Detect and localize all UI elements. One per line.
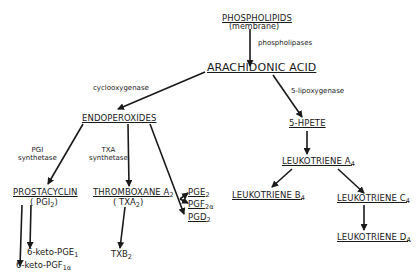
thromboxane-abbr: ( TXA2) xyxy=(113,198,143,209)
node-arachidonic-acid: ARACHIDONIC ACID xyxy=(207,62,316,73)
arachidonic-acid-label: ARACHIDONIC ACID xyxy=(207,61,316,74)
node-prostacyclin: PROSTACYCLIN xyxy=(13,188,78,197)
arrow-endoperoxides-pgd2 xyxy=(150,124,184,214)
node-pge2: PGE2 xyxy=(188,188,210,199)
node-leukotriene-a4: LEUKOTRIENE A4 xyxy=(282,157,355,168)
arrow-thromboxane-txb2 xyxy=(120,207,125,248)
node-leukotriene-c4: LEUKOTRIENE C4 xyxy=(337,194,410,205)
node-pgd2: PGD2 xyxy=(188,213,211,224)
enzyme-pgi-synthetase: PGI synthetase xyxy=(18,147,57,162)
arrow-arachidonic-hpete xyxy=(273,75,302,117)
endoperoxides-label: ENDOPEROXIDES xyxy=(82,113,156,123)
phospholipids-membrane-label: (membrane) xyxy=(229,23,279,31)
pgi-synthetase-line2: synthetase xyxy=(18,155,57,163)
node-5-hpete: 5-HPETE xyxy=(289,119,326,128)
node-6-keto-pgf1a: 6-keto-PGF1α xyxy=(16,261,71,272)
enzyme-txa-synthetase: TXA synthetase xyxy=(89,147,128,162)
enzyme-5-lipoxygenase: 5-lipoxygenase xyxy=(291,88,344,96)
node-leukotriene-b4: LEUKOTRIENE B4 xyxy=(232,191,305,202)
thromboxane-label: THROMBOXANE A2 xyxy=(93,187,174,197)
node-txb2: TXB2 xyxy=(111,250,132,261)
enzyme-cyclooxygenase: cyclooxygenase xyxy=(93,85,149,93)
arrow-prostacyclin-keto-pge1 xyxy=(30,205,31,248)
arachidonic-acid-pathway-diagram: PHOSPHOLIPIDS (membrane) phospholipases … xyxy=(0,0,419,279)
txa-synthetase-line2: synthetase xyxy=(89,155,128,163)
node-endoperoxides: ENDOPEROXIDES xyxy=(82,114,156,123)
prostacyclin-label: PROSTACYCLIN xyxy=(13,187,78,197)
arrow-endoperoxides-thromboxane xyxy=(128,124,129,186)
node-leukotriene-d4: LEUKOTRIENE D4 xyxy=(337,233,411,244)
arrow-prostacyclin-keto-pgf1a xyxy=(20,205,22,266)
node-pgf2a: PGF2α xyxy=(188,200,214,211)
prostacyclin-abbr: ( PGI2) xyxy=(30,198,58,209)
node-6-keto-pge1: 6-keto-PGE1 xyxy=(27,248,78,259)
arrow-branch-pgf2a xyxy=(180,199,188,203)
arrow-lta4-ltc4 xyxy=(338,169,364,193)
enzyme-phospholipases: phospholipases xyxy=(258,40,312,48)
hpete-label: 5-HPETE xyxy=(289,118,326,128)
arrow-branch-pge2 xyxy=(180,193,188,199)
arrow-lta4-ltb4 xyxy=(272,169,292,187)
